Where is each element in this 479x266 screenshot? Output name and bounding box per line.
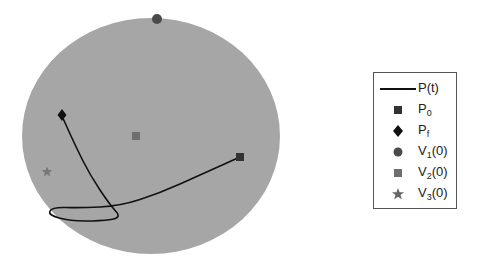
legend-item-pf: Pf <box>374 121 458 141</box>
legend-item-v3: V3(0) <box>374 184 458 204</box>
line-icon <box>374 79 418 99</box>
legend: P(t) P0 Pf V1(0) V2(0) V3(0) <box>373 72 457 209</box>
legend-item-p0: P0 <box>374 100 458 120</box>
legend-label-p-t: P(t) <box>418 80 439 95</box>
diamond-marker-icon <box>374 121 418 141</box>
legend-label-p0: P <box>418 101 427 116</box>
circle-marker-icon <box>374 142 418 162</box>
legend-item-p-t: P(t) <box>374 79 458 99</box>
square-marker-icon <box>132 132 140 140</box>
legend-item-v2: V2(0) <box>374 163 458 183</box>
square-marker-icon <box>236 153 244 161</box>
square-marker-icon <box>374 163 418 183</box>
legend-item-v1: V1(0) <box>374 142 458 162</box>
circle-marker-icon <box>152 14 162 24</box>
star-marker-icon <box>374 184 418 204</box>
square-marker-icon <box>374 100 418 120</box>
legend-label-v3: V <box>418 185 427 200</box>
legend-label-v1: V <box>418 143 427 158</box>
legend-label-v2: V <box>418 164 427 179</box>
legend-label-pf: P <box>418 122 427 137</box>
